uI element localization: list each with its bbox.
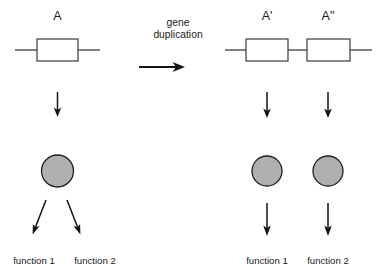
function-arrow-A-prime xyxy=(263,203,271,236)
function-arrow-A-right xyxy=(67,200,80,235)
rightward-process-arrow xyxy=(139,62,185,72)
function-arrow-A-left xyxy=(33,200,46,235)
gene-label-A-double-prime: A" xyxy=(322,9,335,23)
gene-box-A-double-prime xyxy=(307,39,350,61)
function-label-before-1: function 1 xyxy=(13,255,55,266)
function-label-after-1: function 1 xyxy=(246,255,288,266)
expression-arrow-A xyxy=(54,92,62,117)
process-label-line1: gene xyxy=(167,17,190,28)
function-label-before-2: function 2 xyxy=(74,255,116,266)
gene-duplication-diagram: A function 1 function 2 gene duplication xyxy=(0,0,381,280)
expression-arrow-A-double-prime xyxy=(324,92,332,118)
protein-circle-A xyxy=(42,155,74,187)
protein-circle-A-double-prime xyxy=(313,156,343,186)
diagram-canvas: A function 1 function 2 gene duplication xyxy=(0,0,381,280)
gene-label-A-prime: A' xyxy=(262,9,273,23)
gene-label-A: A xyxy=(53,9,62,23)
gene-box-A-prime xyxy=(246,39,288,61)
gene-box-A xyxy=(37,39,78,61)
function-label-after-2: function 2 xyxy=(307,255,349,266)
process-label-line2: duplication xyxy=(153,29,203,40)
expression-arrow-A-prime xyxy=(263,92,271,118)
protein-circle-A-prime xyxy=(252,156,282,186)
function-arrow-A-double-prime xyxy=(324,203,332,236)
